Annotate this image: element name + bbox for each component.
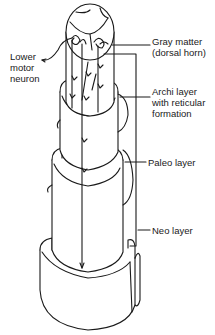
label-line: Neo layer bbox=[152, 225, 193, 236]
label-line: motor bbox=[10, 62, 40, 73]
label-line: Lower bbox=[10, 51, 40, 62]
label-line: formation bbox=[152, 108, 205, 119]
label-gray-matter: Gray matter (dorsal horn) bbox=[152, 36, 206, 58]
label-line: (dorsal horn) bbox=[152, 47, 206, 58]
cross-section bbox=[66, 4, 114, 60]
label-line: Gray matter bbox=[152, 36, 206, 47]
label-neo-layer: Neo layer bbox=[152, 225, 193, 236]
label-line: Archi layer bbox=[152, 86, 205, 97]
label-paleo-layer: Paleo layer bbox=[148, 157, 196, 168]
label-lower-motor-neuron: Lower motor neuron bbox=[10, 51, 40, 84]
label-archi-layer: Archi layer with reticular formation bbox=[152, 86, 205, 119]
label-line: with reticular bbox=[152, 97, 205, 108]
label-line: neuron bbox=[10, 73, 40, 84]
label-line: Paleo layer bbox=[148, 157, 196, 168]
